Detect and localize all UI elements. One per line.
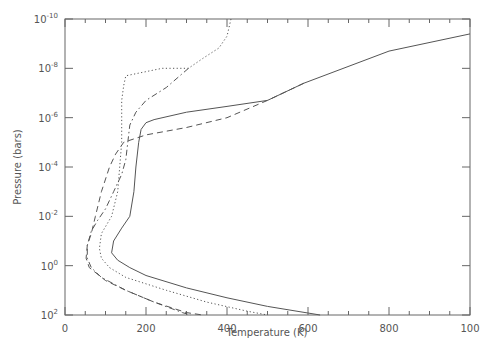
y-tick-label: 102: [41, 308, 58, 321]
y-tick-label: 10-10: [34, 12, 58, 25]
y-tick-label: 10-2: [38, 209, 58, 222]
curve-solid: [112, 34, 470, 315]
x-tick-label: 100: [460, 323, 479, 334]
x-tick-label: 200: [136, 323, 155, 334]
y-axis-title: Pressure (bars): [12, 129, 23, 205]
y-tick-label: 10-4: [38, 160, 58, 173]
plot-frame: [65, 19, 470, 315]
x-axis-ticks: 0200400600800100: [62, 19, 480, 334]
y-tick-label: 10-8: [38, 61, 58, 74]
curve-dotted: [99, 19, 267, 315]
x-tick-label: 0: [62, 323, 68, 334]
y-tick-label: 10-6: [38, 111, 58, 124]
chart: 0200400600800100 10-1010-810-610-410-210…: [0, 0, 491, 358]
x-tick-label: 800: [379, 323, 398, 334]
data-curves: [86, 19, 470, 315]
curve-dashed: [86, 83, 304, 315]
y-tick-label: 100: [41, 259, 58, 272]
x-axis-title: Temperature (K): [226, 327, 308, 338]
